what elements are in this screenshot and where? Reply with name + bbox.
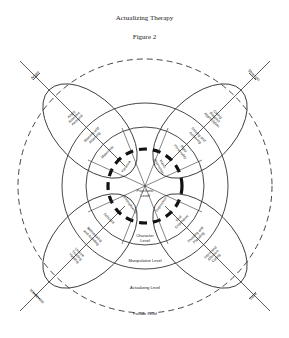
actualizing-diagram: Anger Strength Weakness Love Angry Asser… [0,0,289,338]
psychotic-label-lower-left: Schizophrenia [122,194,138,214]
psychotic-label-lower-right: Depression [155,196,168,212]
manipulative-label-lower-left: Withdrawing and Avoiding [83,226,104,247]
manipulative-label-upper-right: Striving and Achieving [187,126,206,145]
ellipse-label-upper-left: Angry Assertive Annoyed [65,108,84,127]
psychotic-label-upper-left: Paranoia [121,160,132,174]
character-label-lower-right: Oral Dependent [171,211,189,229]
psychotic-label-upper-right: Manic Depressive [153,156,169,175]
axis-label-anger: Anger [29,69,41,81]
ellipse-label-lower-left: Unsure Trusting Yielding [68,247,86,265]
psychotic-level-label: Psychotic Level [136,188,153,198]
character-level-label: Character Level [136,233,154,243]
actualizing-level-label: Actualizing Level [130,285,160,290]
ellipse-label-upper-right: Caring Respect Appreciation [203,106,226,129]
facade-level-label: Facade Level [133,311,157,316]
axis-label-love: Love [248,291,258,301]
character-label-upper-right: Rigid Personality [173,141,191,160]
manipulative-level-label: Manipulative Level [128,258,161,263]
manipulative-label-upper-left: Blaming and Attacking [83,126,103,146]
ellipse-label-lower-right: Interested Affection Caring [203,245,223,265]
svg-text:Level: Level [140,193,150,198]
axis-label-strength: Strength [247,68,261,82]
axis-label-weakness: Weakness [29,288,46,305]
svg-text:Level: Level [140,238,150,243]
center-spokes [88,128,202,244]
character-label-upper-left: Masochist [100,145,114,159]
